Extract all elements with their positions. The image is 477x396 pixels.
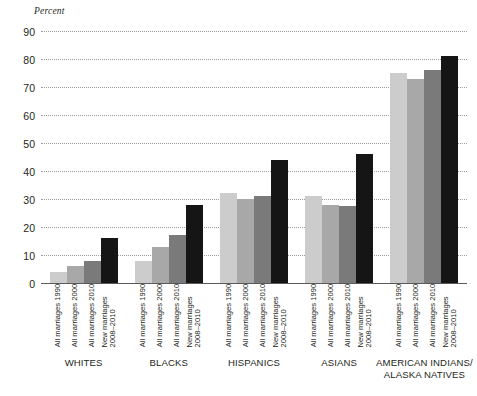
y-tick-label: 60 [23, 110, 35, 122]
category-label: AMERICAN INDIANS/ ALASKA NATIVES [374, 357, 475, 380]
bar[interactable] [390, 73, 407, 283]
series-tick-labels: All marriages 1990All marriages 2000All … [382, 285, 467, 347]
bar[interactable] [135, 261, 152, 283]
x-group-label: All marriages 1990All marriages 2000All … [126, 285, 211, 396]
series-tick-label: All marriages 2010 [424, 285, 441, 347]
series-tick-labels: All marriages 1990All marriages 2000All … [211, 285, 296, 347]
series-tick-label: All marriages 2010 [254, 285, 271, 347]
series-tick-label: All marriages 2000 [67, 285, 84, 347]
series-tick-label: All marriages 2000 [322, 285, 339, 347]
series-tick-label: All marriages 2000 [237, 285, 254, 347]
x-axis-labels: All marriages 1990All marriages 2000All … [41, 285, 467, 396]
bar[interactable] [169, 235, 186, 283]
bar-cluster [135, 31, 203, 283]
y-tick-label: 80 [23, 54, 35, 66]
series-tick-labels: All marriages 1990All marriages 2000All … [41, 285, 126, 347]
bar-cluster [220, 31, 288, 283]
bar-group [382, 31, 467, 283]
x-group-label: All marriages 1990All marriages 2000All … [211, 285, 296, 396]
y-tick-label: 40 [23, 166, 35, 178]
bar[interactable] [152, 247, 169, 283]
bar-group [297, 31, 382, 283]
x-group-label: All marriages 1990All marriages 2000All … [297, 285, 382, 396]
y-tick-label: 30 [23, 194, 35, 206]
bar[interactable] [407, 79, 424, 283]
bar[interactable] [254, 196, 271, 283]
bar[interactable] [356, 154, 373, 283]
series-tick-label: All marriages 2010 [339, 285, 356, 347]
series-tick-label: All marriages 1990 [220, 285, 237, 347]
bar[interactable] [237, 199, 254, 283]
x-group-label: All marriages 1990All marriages 2000All … [41, 285, 126, 396]
bar-group [211, 31, 296, 283]
y-tick-label: 10 [23, 250, 35, 262]
bar-groups [41, 31, 467, 283]
y-tick-label: 0 [29, 278, 35, 290]
series-tick-label: New marriages 2008–2010 [186, 285, 203, 347]
y-axis-title: Percent [34, 6, 65, 16]
y-tick-label: 90 [23, 26, 35, 38]
series-tick-label: All marriages 1990 [305, 285, 322, 347]
series-tick-label: All marriages 1990 [390, 285, 407, 347]
bar[interactable] [441, 56, 458, 283]
bar-group [41, 31, 126, 283]
bar[interactable] [339, 206, 356, 283]
bar-cluster [50, 31, 118, 283]
bar-cluster [305, 31, 373, 283]
series-tick-label: New marriages 2008–2010 [356, 285, 373, 347]
bar[interactable] [305, 196, 322, 283]
series-tick-label: New marriages 2008–2010 [441, 285, 458, 347]
series-tick-label: New marriages 2008–2010 [101, 285, 118, 347]
bar[interactable] [424, 70, 441, 283]
y-tick-label: 20 [23, 222, 35, 234]
series-tick-label: All marriages 1990 [50, 285, 67, 347]
series-tick-labels: All marriages 1990All marriages 2000All … [297, 285, 382, 347]
series-tick-label: New marriages 2008–2010 [271, 285, 288, 347]
bar[interactable] [220, 193, 237, 283]
bar[interactable] [84, 261, 101, 283]
series-tick-label: All marriages 1990 [135, 285, 152, 347]
series-tick-label: All marriages 2000 [152, 285, 169, 347]
bar[interactable] [101, 238, 118, 283]
bar[interactable] [50, 272, 67, 283]
series-tick-labels: All marriages 1990All marriages 2000All … [126, 285, 211, 347]
bar[interactable] [271, 160, 288, 283]
x-group-label: All marriages 1990All marriages 2000All … [382, 285, 467, 396]
series-tick-label: All marriages 2000 [407, 285, 424, 347]
bar-cluster [390, 31, 458, 283]
bar[interactable] [67, 266, 84, 283]
bar[interactable] [322, 205, 339, 283]
bar[interactable] [186, 205, 203, 283]
bar-group [126, 31, 211, 283]
series-tick-label: All marriages 2010 [84, 285, 101, 347]
y-tick-label: 70 [23, 82, 35, 94]
chart-figure: Percent 9080706050403020100 All marriage… [0, 0, 477, 396]
y-tick-label: 50 [23, 138, 35, 150]
series-tick-label: All marriages 2010 [169, 285, 186, 347]
